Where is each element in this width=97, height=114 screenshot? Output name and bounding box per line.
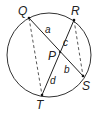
label-P: P <box>48 49 56 63</box>
label-S: S <box>82 79 90 93</box>
point-T-dot <box>41 94 44 97</box>
label-T: T <box>36 98 45 112</box>
segment-label-b: b <box>64 64 70 75</box>
segment-label-d: d <box>50 75 56 86</box>
segment-label-a: a <box>45 24 51 35</box>
label-R: R <box>71 4 80 18</box>
diagram-canvas: Q R S T P a b c d <box>0 0 97 114</box>
point-Q-dot <box>28 17 31 20</box>
segment-label-c: c <box>63 37 68 48</box>
point-R-dot <box>73 19 76 22</box>
point-S-dot <box>82 75 85 78</box>
point-P-dot <box>59 51 61 53</box>
label-Q: Q <box>18 4 27 18</box>
intersecting-chords-diagram: Q R S T P a b c d <box>0 0 97 114</box>
